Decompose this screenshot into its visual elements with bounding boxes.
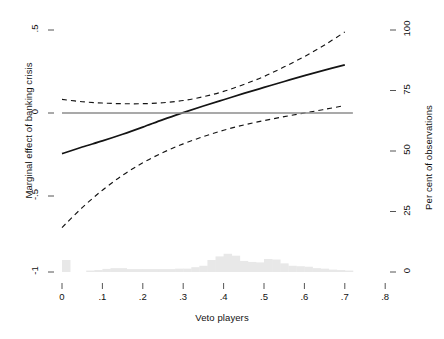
histogram-bar [102,269,110,272]
histogram-bar [337,270,345,272]
histogram-bar [280,263,288,272]
histogram-bar [224,254,232,272]
x-tick-label: .5 [252,291,276,302]
histogram-bar [232,256,240,272]
y-right-tick-label: 25 [401,198,412,222]
histogram-bar [345,271,353,272]
histogram-bar [321,269,329,272]
y-axis-right-title: Per cent of observations [423,53,434,263]
histogram-bar [207,260,215,272]
y-left-tick-label: .5 [29,17,40,41]
histogram-bar [151,269,159,272]
histogram-bar [264,259,272,272]
y-left-tick-label: -1 [29,259,40,283]
series-upper-confidence-bound [62,32,345,104]
histogram-bar [199,266,207,272]
y-right-tick-label: 100 [401,17,412,41]
histogram-bar [329,270,337,272]
histogram-bar [312,268,320,272]
histogram-bar [175,269,183,272]
histogram-bar [94,270,102,272]
chart-canvas [0,0,444,339]
histogram-bar [110,268,118,272]
y-right-tick-label: 50 [401,138,412,162]
x-tick-label: .8 [373,291,397,302]
y-left-tick-label: -.5 [29,183,40,207]
x-axis-title: Veto players [0,312,444,323]
x-tick-label: .3 [171,291,195,302]
histogram-bar [191,267,199,272]
axis-ticks [48,30,396,289]
x-tick-label: 0 [50,291,74,302]
histogram-bars [62,254,353,272]
x-tick-label: .1 [90,291,114,302]
histogram-bar [240,261,248,272]
histogram-bar [143,269,151,272]
series-lower-confidence-bound [62,106,345,228]
histogram-bar [183,269,191,272]
x-tick-label: .7 [333,291,357,302]
chart-series [62,32,353,228]
histogram-bar [256,262,264,272]
histogram-bar [135,269,143,272]
histogram-bar [304,267,312,272]
y-right-tick-label: 75 [401,77,412,101]
y-left-tick-label: 0 [29,100,40,124]
series-marginal-effect [62,65,345,154]
marginal-effect-chart: Marginal effect of banking crisis Per ce… [0,0,444,339]
histogram-bar [127,269,135,272]
y-right-tick-label: 0 [401,259,412,283]
histogram-bar [272,260,280,272]
histogram-bar [216,256,224,272]
histogram-bar [62,260,70,272]
x-tick-label: .2 [131,291,155,302]
histogram-bar [119,268,127,272]
histogram-bar [86,271,94,272]
x-tick-label: .4 [212,291,236,302]
x-tick-label: .6 [292,291,316,302]
histogram-bar [296,266,304,272]
histogram-bar [248,262,256,272]
histogram-bar [159,269,167,272]
histogram-bar [167,269,175,272]
histogram-bar [288,266,296,272]
